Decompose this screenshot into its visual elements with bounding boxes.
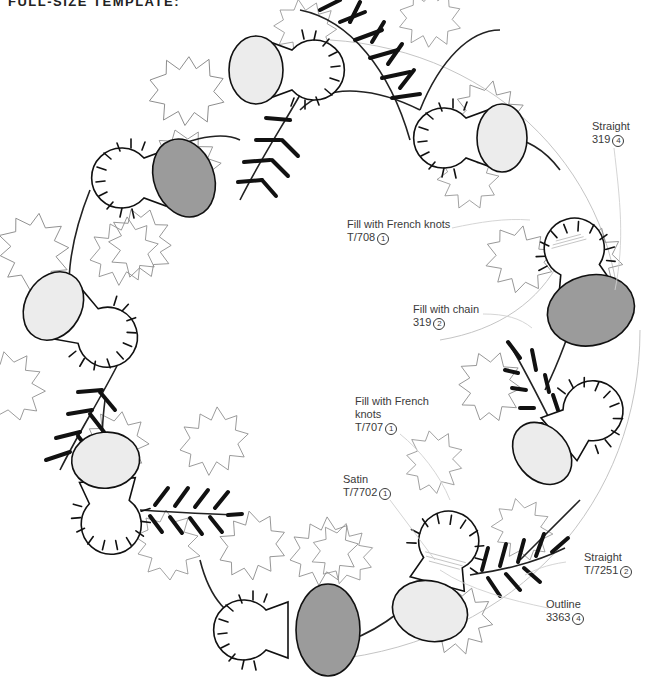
bulb-right	[524, 208, 642, 356]
bulb-lower-right	[384, 502, 495, 650]
bulb-upper-left	[92, 130, 226, 226]
label-chain-319: Fill with chain 3192	[413, 303, 479, 330]
bulbs	[10, 30, 643, 676]
strand-count: 4	[572, 613, 584, 625]
label-straight-319: Straight 3194	[592, 120, 630, 147]
stitch-type: Fill with French	[355, 395, 429, 408]
stitch-type: Satin	[343, 473, 391, 486]
stitch-type-cont: knots	[355, 408, 429, 421]
label-french-knots-708: Fill with French knots T/7081	[347, 218, 450, 245]
thread-code: T/708	[347, 231, 375, 243]
thread-code: T/7702	[343, 486, 377, 498]
thread-code: 3363	[546, 611, 570, 623]
strand-count: 1	[385, 423, 397, 435]
strand-count: 4	[612, 135, 624, 147]
thread-code: T/7251	[584, 564, 618, 576]
thread-code: 319	[592, 133, 610, 145]
bulb-upper-right	[414, 99, 527, 178]
bulb-bottom	[214, 584, 360, 676]
stitch-type: Fill with French knots	[347, 218, 450, 231]
stitch-type: Straight	[584, 551, 632, 564]
stitch-type: Outline	[546, 598, 584, 611]
wreath-illustration	[0, 0, 653, 681]
strand-count: 1	[377, 233, 389, 245]
label-outline-3363: Outline 33634	[546, 598, 584, 625]
bulb-top	[229, 30, 344, 109]
thread-code: 319	[413, 316, 431, 328]
stitch-type: Straight	[592, 120, 630, 133]
strand-count: 2	[620, 566, 632, 578]
strand-count: 1	[379, 488, 391, 500]
strand-count: 2	[433, 318, 445, 330]
label-satin-7702: Satin T/77021	[343, 473, 391, 500]
bulb-right-mid	[497, 361, 642, 500]
bulb-left	[10, 257, 154, 386]
stitch-type: Fill with chain	[413, 303, 479, 316]
label-straight-7251: Straight T/72512	[584, 551, 632, 578]
label-french-knots-707: Fill with French knots T/7071	[355, 395, 429, 435]
thread-code: T/707	[355, 421, 383, 433]
